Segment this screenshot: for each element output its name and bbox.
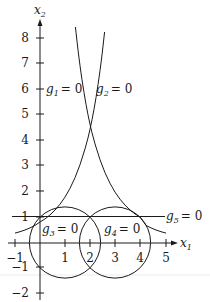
y-tick-label: −1 [11,260,29,274]
y-tick-label: 5 [21,107,29,121]
x-axis-label: x1 [180,236,192,252]
y-tick-label: 4 [21,133,29,147]
y-axis-arrow-icon [38,19,43,26]
y-tick-label: 7 [21,56,29,70]
y-tick-label: 2 [21,184,29,198]
diagram-svg: −1 1 2 3 4 5 x1 8 7 6 5 4 3 2 1 −1 − [0,0,210,302]
y-axis-label: x2 [34,3,46,19]
g5-label: g5= 0 [166,209,202,225]
x-axis-arrow-icon [171,241,178,246]
x-tick-label: 3 [111,251,119,265]
x-tick-label: 4 [136,251,144,265]
g1-label: g1= 0 [46,82,82,98]
y-tick-label: 3 [21,158,29,172]
g2-label: g2= 0 [96,82,132,98]
x-tick-label: 1 [61,251,69,265]
y-tick-label: 8 [21,31,29,45]
x-tick-label: 5 [162,251,170,265]
x-tick-label: 2 [86,251,94,265]
y-tick-label: 6 [21,82,29,96]
g4-label: g4= 0 [104,222,140,238]
y-tick-label: −2 [11,286,29,300]
g3-label: g3= 0 [42,222,78,238]
constraint-diagram: −1 1 2 3 4 5 x1 8 7 6 5 4 3 2 1 −1 − [0,0,210,302]
constraint-g2-curve [75,27,166,233]
